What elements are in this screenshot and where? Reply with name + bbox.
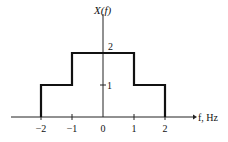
x-axis-arrow-icon [193, 115, 197, 120]
level-label-1: 1 [107, 80, 112, 91]
tick-label-0: 0 [101, 123, 106, 134]
tick-label-2: 2 [163, 123, 168, 134]
x-axis-label: f, Hz [198, 112, 219, 123]
tick-label-m1: −1 [67, 123, 78, 134]
y-axis-label: X(f) [93, 4, 111, 17]
level-label-2: 2 [108, 41, 113, 52]
tick-label-1: 1 [132, 123, 137, 134]
tick-label-m2: −2 [36, 123, 47, 134]
spectrum-chart: X(f) f, Hz −2 −1 0 1 2 1 2 [0, 0, 228, 142]
